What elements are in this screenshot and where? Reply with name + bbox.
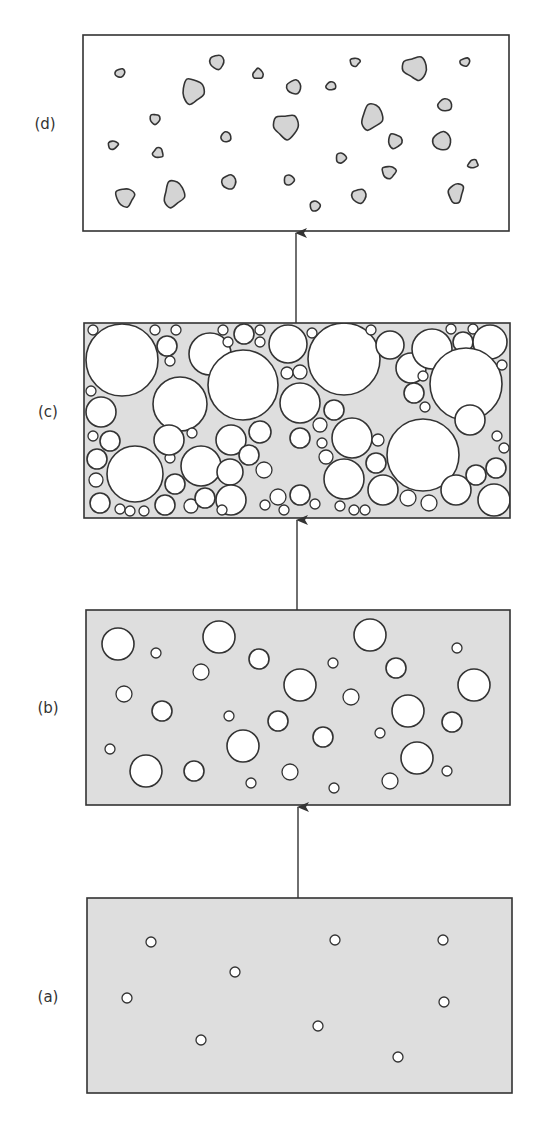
void-circle: [234, 324, 254, 344]
void-circle: [375, 728, 385, 738]
void-circle: [249, 421, 271, 443]
void-circle: [171, 325, 181, 335]
void-circle: [165, 356, 175, 366]
void-circle: [116, 686, 132, 702]
panel-a-label: (a): [38, 988, 59, 1006]
panel-a-background: [87, 898, 512, 1093]
void-circle: [455, 405, 485, 435]
void-circle: [354, 619, 386, 651]
void-circle: [332, 418, 372, 458]
void-circle: [88, 325, 98, 335]
void-circle: [404, 383, 424, 403]
void-circle: [239, 445, 259, 465]
void-circle: [372, 434, 384, 446]
void-circle: [317, 438, 327, 448]
void-circle: [146, 937, 156, 947]
void-circle: [227, 730, 259, 762]
void-circle: [420, 402, 430, 412]
void-circle: [324, 459, 364, 499]
void-circle: [88, 431, 98, 441]
void-circle: [466, 465, 486, 485]
panel-a: [87, 898, 512, 1093]
panel-b-label: (b): [37, 699, 58, 717]
void-circle: [446, 324, 456, 334]
void-circle: [442, 766, 452, 776]
void-circle: [438, 935, 448, 945]
void-circle: [165, 474, 185, 494]
void-circle: [328, 658, 338, 668]
void-circle: [401, 742, 433, 774]
void-circle: [217, 459, 243, 485]
particle-blob: [221, 132, 231, 142]
void-circle: [268, 711, 288, 731]
void-circle: [196, 1035, 206, 1045]
void-circle: [335, 501, 345, 511]
particle-blob: [115, 69, 125, 77]
void-circle: [246, 778, 256, 788]
void-circle: [89, 473, 103, 487]
panel-d-label: (d): [34, 115, 55, 133]
void-circle: [139, 506, 149, 516]
void-circle: [282, 764, 298, 780]
void-circle: [281, 367, 293, 379]
particle-blob: [222, 175, 236, 189]
void-circle: [184, 761, 204, 781]
void-circle: [203, 621, 235, 653]
void-circle: [90, 493, 110, 513]
void-circle: [284, 669, 316, 701]
void-circle: [366, 453, 386, 473]
void-circle: [310, 499, 320, 509]
void-circle: [329, 783, 339, 793]
void-circle: [187, 428, 197, 438]
void-circle: [393, 1052, 403, 1062]
void-circle: [218, 325, 228, 335]
void-circle: [349, 505, 359, 515]
void-circle: [293, 365, 307, 379]
void-circle: [249, 649, 269, 669]
void-circle: [157, 336, 177, 356]
void-circle: [152, 701, 172, 721]
panel-d: [83, 35, 509, 231]
void-circle: [154, 425, 184, 455]
void-circle: [150, 325, 160, 335]
void-circle: [102, 628, 134, 660]
void-circle: [86, 324, 158, 396]
void-circle: [382, 773, 398, 789]
void-circle: [421, 495, 437, 511]
void-circle: [224, 711, 234, 721]
void-circle: [125, 506, 135, 516]
void-circle: [269, 325, 307, 363]
void-circle: [313, 418, 327, 432]
void-circle: [386, 658, 406, 678]
void-circle: [290, 428, 310, 448]
void-circle: [290, 485, 310, 505]
void-circle: [217, 505, 227, 515]
void-circle: [400, 490, 416, 506]
void-circle: [442, 712, 462, 732]
void-circle: [319, 450, 333, 464]
void-circle: [280, 383, 320, 423]
panel-b: [86, 610, 510, 805]
void-circle: [107, 446, 163, 502]
void-circle: [497, 360, 507, 370]
void-circle: [100, 431, 120, 451]
void-circle: [368, 475, 398, 505]
void-circle: [255, 337, 265, 347]
void-circle: [360, 505, 370, 515]
void-circle: [193, 664, 209, 680]
void-circle: [255, 325, 265, 335]
void-circle: [366, 325, 376, 335]
void-circle: [181, 446, 221, 486]
particle-blob: [310, 201, 320, 211]
void-circle: [324, 400, 344, 420]
void-circle: [279, 505, 289, 515]
void-circle: [256, 462, 272, 478]
void-circle: [230, 967, 240, 977]
void-circle: [208, 350, 278, 420]
particle-blob: [460, 58, 470, 66]
void-circle: [87, 449, 107, 469]
void-circle: [486, 458, 506, 478]
void-circle: [260, 500, 270, 510]
void-circle: [376, 331, 404, 359]
void-circle: [86, 386, 96, 396]
